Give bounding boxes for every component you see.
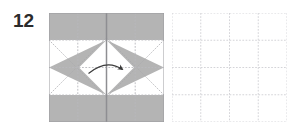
right-panel-group	[172, 13, 287, 122]
origami-diagram-canvas	[0, 0, 299, 133]
left-panel-group	[49, 13, 164, 122]
origami-step-figure: 12	[0, 0, 299, 133]
